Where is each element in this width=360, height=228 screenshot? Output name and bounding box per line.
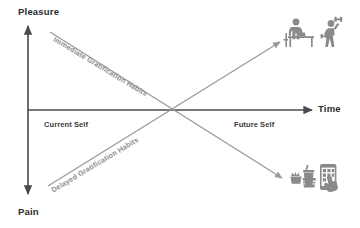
pleasure-axis-label: Pleasure bbox=[18, 6, 59, 17]
delayed-gratification-line bbox=[48, 42, 280, 186]
current-self-label: Current Self bbox=[44, 120, 88, 129]
desk-work-and-exercise-icon bbox=[283, 17, 342, 47]
time-axis-label: Time bbox=[318, 103, 341, 114]
pain-axis-label: Pain bbox=[18, 206, 39, 217]
fast-food-and-smartphone-icon bbox=[290, 164, 337, 192]
future-self-label: Future Self bbox=[234, 120, 274, 129]
diagram-canvas: Pleasure Pain Time Current Self Future S… bbox=[0, 0, 360, 228]
